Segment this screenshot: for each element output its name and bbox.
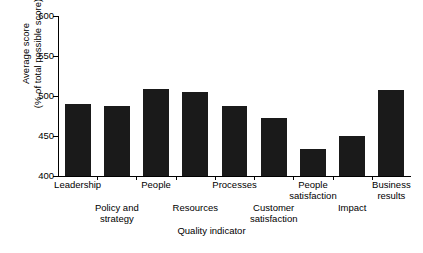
x-axis-category-label: Processes (193, 180, 275, 191)
x-axis-tick-mark (372, 176, 373, 180)
bar (143, 89, 169, 176)
y-axis-tick-mark (53, 16, 58, 17)
x-axis-tick-mark (293, 176, 294, 180)
category-label-line1: Business (350, 180, 423, 191)
category-label-line2: strategy (76, 214, 158, 225)
category-label-line1: Resources (154, 203, 236, 214)
y-axis-tick-labels: 400450500550600 (26, 0, 54, 253)
x-axis-category-label: Customersatisfaction (233, 203, 315, 224)
x-axis-tick-mark (97, 176, 98, 180)
bar (222, 106, 248, 176)
plot-area (58, 16, 411, 176)
bar (65, 104, 91, 176)
bar (182, 92, 208, 176)
y-axis-tick-mark (53, 176, 58, 177)
bar (378, 90, 404, 176)
bar (300, 149, 326, 176)
bar (339, 136, 365, 176)
bar-chart-figure: Average score (% of total possible score… (0, 0, 423, 253)
y-axis-tick-mark (53, 96, 58, 97)
category-label-line1: Leadership (36, 180, 118, 191)
bar (104, 106, 130, 176)
x-axis-tick-mark (215, 176, 216, 180)
y-axis-tick-mark (53, 56, 58, 57)
x-axis-category-label: Policy andstrategy (76, 203, 158, 224)
x-axis-category-label: People (115, 180, 197, 191)
category-label-line1: People (272, 180, 354, 191)
category-label-line1: Impact (311, 203, 393, 214)
x-axis-tick-mark (333, 176, 334, 180)
x-axis-tick-mark (176, 176, 177, 180)
x-axis-tick-mark (254, 176, 255, 180)
x-axis-category-label: Resources (154, 203, 236, 214)
y-axis-tick-label: 600 (26, 11, 54, 21)
y-axis-tick-label: 450 (26, 131, 54, 141)
x-axis-title: Quality indicator (0, 225, 423, 236)
category-label-line2: satisfaction (233, 214, 315, 225)
category-label-line2: results (350, 191, 423, 202)
category-label-line2: satisfaction (272, 191, 354, 202)
x-axis-category-label: Businessresults (350, 180, 423, 201)
y-axis-tick-mark (53, 136, 58, 137)
x-axis-tick-mark (136, 176, 137, 180)
category-label-line1: Policy and (76, 203, 158, 214)
category-label-line1: Processes (193, 180, 275, 191)
category-label-line1: People (115, 180, 197, 191)
y-axis-tick-label: 500 (26, 91, 54, 101)
category-label-line1: Customer (233, 203, 315, 214)
x-axis-category-label: Impact (311, 203, 393, 214)
x-axis-line (58, 176, 411, 177)
x-axis-category-label: Peoplesatisfaction (272, 180, 354, 201)
y-axis-tick-label: 550 (26, 51, 54, 61)
bar (261, 118, 287, 176)
x-axis-category-label: Leadership (36, 180, 118, 191)
